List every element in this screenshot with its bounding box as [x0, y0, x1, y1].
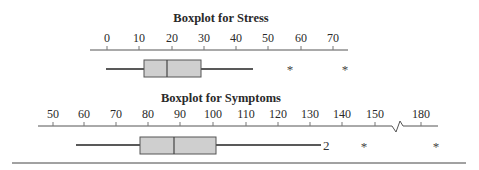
symptoms-tick-label: 110 [237, 107, 255, 121]
stress-tick-label: 0 [104, 31, 110, 45]
stress-tick-label: 40 [230, 31, 242, 45]
stress-tick-label: 10 [133, 31, 145, 45]
symptoms-outlier-marker: * [361, 139, 368, 154]
symptoms-axis-line-with-break [38, 121, 438, 132]
symptoms-tick-label: 100 [204, 107, 222, 121]
symptoms-tick-labels: 50 60 70 80 90 100 110 120 130 140 150 1… [47, 107, 430, 121]
boxplot-figure: Boxplot for Stress 0 10 20 30 40 50 60 7… [0, 0, 479, 170]
symptoms-tick-label: 180 [412, 107, 430, 121]
symptoms-tick-label: 60 [78, 107, 90, 121]
stress-tick-label: 20 [166, 31, 178, 45]
stress-outlier-marker: * [342, 62, 349, 77]
symptoms-iqr-box [140, 137, 216, 154]
stress-tick-label: 60 [295, 31, 307, 45]
symptoms-title: Boxplot for Symptoms [161, 91, 281, 105]
stress-tick-labels: 0 10 20 30 40 50 60 70 [104, 31, 339, 45]
symptoms-tick-label: 120 [269, 107, 287, 121]
stress-tick-label: 50 [262, 31, 274, 45]
symptoms-tick-label: 80 [142, 107, 154, 121]
symptoms-tick-label: 90 [174, 107, 186, 121]
stress-boxplot: Boxplot for Stress 0 10 20 30 40 50 60 7… [90, 11, 348, 77]
stress-ticks [107, 46, 333, 50]
stress-tick-label: 70 [327, 31, 339, 45]
symptoms-whisker-count-label: 2 [323, 138, 330, 153]
symptoms-tick-label: 70 [110, 107, 122, 121]
symptoms-tick-label: 130 [301, 107, 319, 121]
symptoms-ticks [53, 122, 421, 126]
symptoms-outlier-marker: * [433, 139, 440, 154]
stress-iqr-box [144, 60, 201, 77]
stress-outlier-marker: * [287, 62, 294, 77]
stress-tick-label: 30 [198, 31, 210, 45]
stress-title: Boxplot for Stress [173, 11, 269, 25]
symptoms-tick-label: 150 [366, 107, 384, 121]
symptoms-boxplot: Boxplot for Symptoms 50 60 70 80 90 100 … [38, 91, 439, 154]
symptoms-tick-label: 50 [47, 107, 59, 121]
symptoms-tick-label: 140 [333, 107, 351, 121]
